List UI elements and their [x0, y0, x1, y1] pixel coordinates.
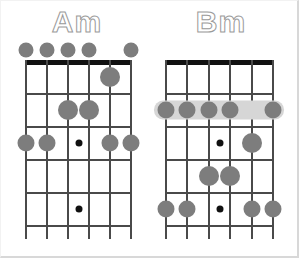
finger-dot-s5-f3 — [39, 134, 56, 151]
fret-inlay-3 — [75, 139, 82, 146]
fretboard-bm — [165, 60, 272, 225]
finger-dot-s4-f4 — [199, 166, 219, 186]
string-4 — [67, 60, 69, 239]
open-string-marker-4 — [61, 43, 76, 58]
string-3 — [229, 60, 231, 239]
fret-line-2 — [25, 126, 132, 128]
finger-dot-s5-f5 — [179, 200, 196, 217]
string-4 — [208, 60, 210, 239]
chord-diagram-am: Am — [7, 1, 147, 258]
fret-line-4 — [165, 192, 274, 194]
fret-line-1 — [165, 93, 274, 95]
finger-dot-s6-f5 — [158, 200, 175, 217]
finger-dot-s3-f4 — [220, 166, 240, 186]
nut-am — [25, 60, 132, 65]
finger-dot-s1-f2 — [265, 101, 282, 118]
finger-dot-s1-f5 — [265, 200, 282, 217]
open-string-marker-3 — [82, 43, 97, 58]
fret-line-5 — [25, 225, 132, 227]
fret-line-3 — [165, 159, 274, 161]
string-3 — [88, 60, 90, 239]
finger-dot-s3-f2 — [79, 100, 99, 120]
nut-bm — [165, 60, 274, 65]
finger-dot-s1-f3 — [123, 134, 140, 151]
finger-dot-s4-f2 — [58, 100, 78, 120]
chord-title-bm: Bm — [151, 7, 291, 37]
fret-line-4 — [25, 192, 132, 194]
chord-title-am: Am — [7, 7, 147, 37]
open-string-marker-6 — [19, 43, 34, 58]
fret-line-5 — [165, 225, 274, 227]
finger-dot-s5-f2 — [179, 101, 196, 118]
finger-dot-s2-f3 — [242, 133, 262, 153]
fret-line-2 — [165, 126, 274, 128]
open-string-marker-5 — [40, 43, 55, 58]
finger-dot-s4-f2 — [200, 101, 217, 118]
fret-inlay-5 — [75, 205, 82, 212]
chord-chart-canvas: Am Bm — [0, 0, 299, 258]
finger-dot-s3-f2 — [222, 101, 239, 118]
fret-inlay-3 — [216, 139, 223, 146]
chord-diagram-bm: Bm — [151, 1, 291, 258]
finger-dot-s2-f5 — [243, 200, 260, 217]
open-string-marker-1 — [124, 43, 139, 58]
finger-dot-s2-f3 — [102, 134, 119, 151]
finger-dot-s6-f3 — [18, 134, 35, 151]
fret-inlay-5 — [216, 205, 223, 212]
fretboard-am — [25, 60, 130, 225]
fret-line-3 — [25, 159, 132, 161]
finger-dot-s6-f2 — [158, 101, 175, 118]
finger-dot-s2-f1 — [100, 67, 120, 87]
fret-line-1 — [25, 93, 132, 95]
